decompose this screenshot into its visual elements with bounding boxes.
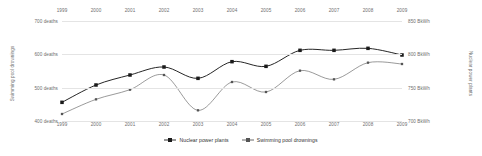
data-point-marker bbox=[231, 81, 233, 83]
x-tick-label: 2003 bbox=[193, 8, 204, 13]
data-point-marker bbox=[95, 98, 97, 100]
y-axis-right-ticks: 700 BkWh750 BkWh800 BkWh850 BkWh bbox=[408, 21, 468, 121]
x-tick-label: 2006 bbox=[295, 8, 306, 13]
x-axis-bottom-ticks: 1999200020012002200320042005200620072008… bbox=[62, 122, 402, 132]
x-tick-label: 2008 bbox=[363, 122, 374, 127]
data-point-marker bbox=[60, 101, 64, 105]
data-point-marker bbox=[265, 91, 267, 93]
x-tick-label: 2001 bbox=[125, 8, 136, 13]
gridline bbox=[62, 21, 402, 22]
y-tick-label: 400 deaths bbox=[34, 119, 58, 124]
data-point-marker bbox=[333, 78, 335, 80]
x-tick-label: 2009 bbox=[397, 122, 408, 127]
y-axis-left-title: Swimming pool drownings bbox=[10, 24, 15, 124]
gridline bbox=[62, 121, 402, 122]
plot-area bbox=[62, 21, 402, 121]
y-tick-label: 800 BkWh bbox=[408, 52, 430, 57]
legend-label: Nuclear power plants bbox=[179, 137, 228, 143]
data-point-marker bbox=[264, 65, 268, 69]
x-tick-label: 2007 bbox=[329, 8, 340, 13]
data-point-marker bbox=[94, 83, 98, 87]
data-point-marker bbox=[367, 62, 369, 64]
data-point-marker bbox=[196, 77, 200, 81]
data-point-marker bbox=[129, 89, 131, 91]
data-point-marker bbox=[332, 49, 336, 53]
y-tick-label: 850 BkWh bbox=[408, 19, 430, 24]
legend-entry[interactable]: Nuclear power plants bbox=[164, 137, 228, 143]
x-tick-label: 2005 bbox=[261, 122, 272, 127]
x-tick-label: 2009 bbox=[397, 8, 408, 13]
legend-label: Swimming pool drownings bbox=[257, 137, 318, 143]
data-point-marker bbox=[298, 49, 302, 53]
x-tick-label: 1999 bbox=[57, 8, 68, 13]
x-tick-label: 2001 bbox=[125, 122, 136, 127]
gridline bbox=[62, 88, 402, 89]
data-point-marker bbox=[299, 70, 301, 72]
data-point-marker bbox=[163, 74, 165, 76]
data-point-marker bbox=[162, 65, 166, 69]
data-point-marker bbox=[128, 73, 132, 77]
x-tick-label: 2000 bbox=[91, 122, 102, 127]
data-point-marker bbox=[197, 109, 199, 111]
x-tick-label: 2006 bbox=[295, 122, 306, 127]
x-tick-label: 2002 bbox=[159, 8, 170, 13]
x-tick-label: 2005 bbox=[261, 8, 272, 13]
data-point-marker bbox=[401, 63, 403, 65]
legend: Nuclear power plantsSwimming pool drowni… bbox=[0, 137, 482, 143]
y-axis-right-title: Nuclear power plants bbox=[468, 24, 473, 124]
y-tick-label: 700 BkWh bbox=[408, 119, 430, 124]
x-tick-label: 2003 bbox=[193, 122, 204, 127]
x-tick-label: 2004 bbox=[227, 8, 238, 13]
data-point-marker bbox=[61, 113, 63, 115]
y-tick-label: 500 deaths bbox=[34, 85, 58, 90]
legend-marker-icon bbox=[164, 137, 176, 143]
data-point-marker bbox=[230, 60, 234, 64]
x-axis-top-ticks: 1999200020012002200320042005200620072008… bbox=[62, 8, 402, 18]
legend-entry[interactable]: Swimming pool drownings bbox=[242, 137, 318, 143]
data-point-marker bbox=[366, 47, 370, 51]
x-tick-label: 2000 bbox=[91, 8, 102, 13]
x-tick-label: 2007 bbox=[329, 122, 340, 127]
chart-container: 400 deaths500 deaths600 deaths700 deaths… bbox=[0, 0, 482, 156]
y-tick-label: 750 BkWh bbox=[408, 85, 430, 90]
x-tick-label: 2008 bbox=[363, 8, 374, 13]
series-canvas bbox=[62, 21, 402, 121]
x-tick-label: 2004 bbox=[227, 122, 238, 127]
x-tick-label: 2002 bbox=[159, 122, 170, 127]
y-tick-label: 600 deaths bbox=[34, 52, 58, 57]
x-tick-label: 1999 bbox=[57, 122, 68, 127]
y-tick-label: 700 deaths bbox=[34, 19, 58, 24]
legend-marker-icon bbox=[242, 137, 254, 143]
gridline bbox=[62, 54, 402, 55]
